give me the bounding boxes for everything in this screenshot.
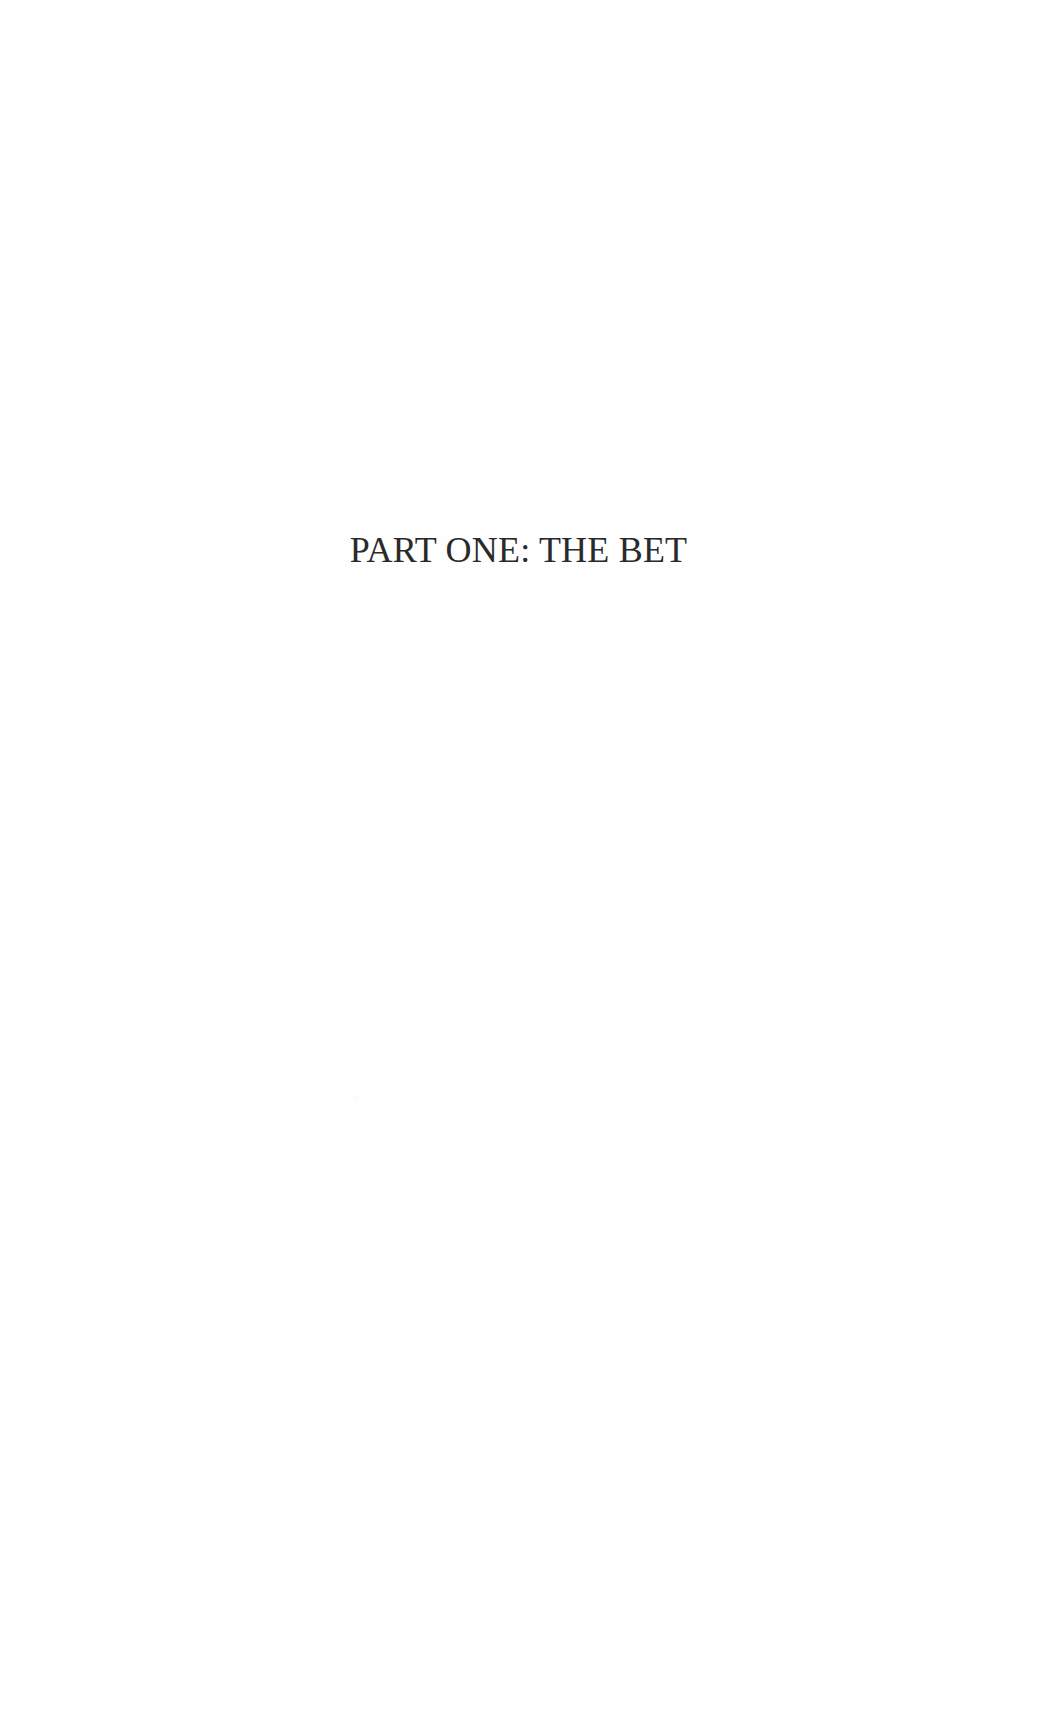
book-page: PART ONE: THE BET	[0, 0, 1051, 1712]
part-title: PART ONE: THE BET	[0, 528, 1037, 572]
scan-speck	[356, 1097, 358, 1099]
